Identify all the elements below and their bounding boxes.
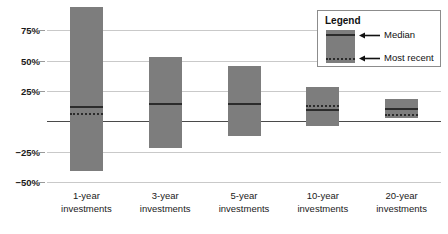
- gridline: [47, 152, 441, 153]
- bar-most-recent-line: [149, 103, 182, 105]
- legend-most-recent-line: [326, 58, 355, 60]
- bar-most-recent-line: [228, 103, 261, 105]
- x-axis-tick-label: 5-yearinvestments: [201, 190, 287, 215]
- x-axis-tick-label: 1-yearinvestments: [43, 190, 129, 215]
- x-axis-labels: 1-yearinvestments3-yearinvestments5-year…: [47, 182, 441, 234]
- bar-most-recent-line: [385, 114, 418, 116]
- y-axis-tick: [36, 30, 45, 31]
- x-axis-tick-label: 20-yearinvestments: [359, 190, 445, 215]
- y-axis-tick: [36, 182, 45, 183]
- bar-median-line: [385, 108, 418, 110]
- x-axis-tick-label: 3-yearinvestments: [122, 190, 208, 215]
- bar-most-recent-line: [306, 105, 339, 107]
- bar-median-line: [306, 109, 339, 111]
- legend: Legend Median Most recent: [317, 10, 441, 67]
- bar-range: [306, 87, 339, 126]
- legend-median-line: [326, 34, 355, 36]
- legend-entry-most-recent: Most recent: [384, 52, 434, 63]
- bar-median-line: [70, 106, 103, 108]
- y-axis-tick: [36, 61, 45, 62]
- y-axis-tick: [36, 152, 45, 153]
- y-axis-tick: [36, 91, 45, 92]
- bar-range: [149, 57, 182, 148]
- bar-range: [70, 7, 103, 171]
- legend-entry-median: Median: [384, 29, 415, 40]
- legend-swatch: [326, 30, 355, 63]
- chart-container: 75% 50% 25% −25% −50% 1-yearinvestments3…: [0, 0, 448, 234]
- legend-most-recent-arrow-icon: [359, 55, 381, 62]
- bar-range: [228, 66, 261, 136]
- legend-title: Legend: [325, 15, 361, 26]
- x-axis-tick-label: 10-yearinvestments: [280, 190, 366, 215]
- bar-most-recent-line: [70, 113, 103, 115]
- bar-range: [385, 99, 418, 117]
- legend-median-arrow-icon: [359, 32, 381, 39]
